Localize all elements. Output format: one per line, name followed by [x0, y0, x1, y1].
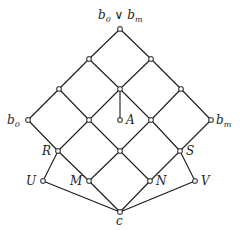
label-R: R [41, 144, 51, 158]
node-l3c [179, 87, 183, 91]
label-V: V [201, 174, 211, 188]
node-S [178, 149, 182, 153]
edge-l3b-l4b [120, 89, 151, 120]
label-top-join: b0 ∨ bm [98, 8, 143, 24]
edge-l3c-bm [181, 89, 211, 120]
edge-l4a-mid [89, 120, 120, 151]
edge-bm-S [180, 120, 211, 151]
edge-l2b-l3c [151, 59, 181, 89]
edge-l2b-l3b [120, 59, 151, 89]
edge-l3c-l4b [151, 89, 181, 120]
node-l3a [57, 87, 61, 91]
node-bm [209, 118, 213, 122]
edge-l3a-b0 [28, 89, 59, 120]
node-M [87, 179, 91, 183]
label-M: M [69, 174, 83, 188]
node-V [193, 179, 197, 183]
edge-l3b-l4a [89, 89, 120, 120]
edge-l3a-l4a [59, 89, 89, 120]
edge-l4a-R [58, 120, 89, 151]
lattice-nodes [26, 27, 213, 214]
label-S: S [186, 144, 194, 158]
node-l4b [149, 118, 153, 122]
label-N: N [155, 174, 167, 188]
node-l4a [87, 118, 91, 122]
edge-N-c [120, 181, 150, 212]
edge-M-c [89, 181, 120, 212]
label-U: U [26, 174, 37, 188]
edge-mid-N [120, 151, 150, 181]
edge-l4b-mid [120, 120, 151, 151]
node-l2a [87, 57, 91, 61]
node-mid [118, 149, 122, 153]
label-c: c [116, 214, 123, 228]
edge-l4b-S [151, 120, 180, 151]
label-A: A [125, 113, 135, 127]
node-N [148, 179, 152, 183]
edge-top-l2a [89, 29, 120, 59]
edge-top-l2b [120, 29, 151, 59]
edge-mid-M [89, 151, 120, 181]
node-top [118, 27, 122, 31]
node-R [56, 149, 60, 153]
edge-l2a-l3a [59, 59, 89, 89]
node-l3b [118, 87, 122, 91]
node-l2b [149, 57, 153, 61]
lattice-diagram: b0 ∨ bm b0 bm A R S U M N V c [0, 0, 241, 230]
label-bm: bm [216, 113, 232, 129]
node-b0 [26, 118, 30, 122]
label-b0: b0 [7, 113, 20, 129]
edge-l2a-l3b [89, 59, 120, 89]
node-A [118, 118, 122, 122]
node-U [41, 179, 45, 183]
